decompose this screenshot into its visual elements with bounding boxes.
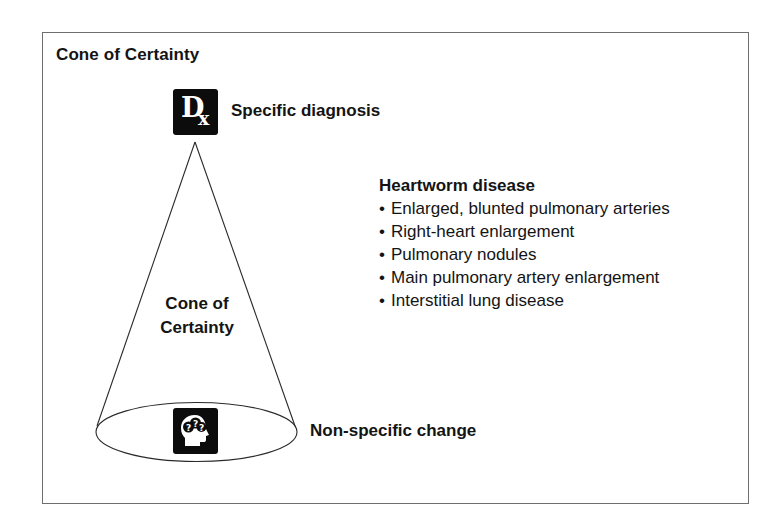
list-item: •Right-heart enlargement xyxy=(379,220,670,243)
svg-text:?: ? xyxy=(199,423,204,433)
list-item-text: Pulmonary nodules xyxy=(391,245,537,264)
list-item-text: Main pulmonary artery enlargement xyxy=(391,268,659,287)
bullet-icon: • xyxy=(379,220,391,243)
non-specific-change-label: Non-specific change xyxy=(310,421,476,441)
list-item-text: Interstitial lung disease xyxy=(391,291,564,310)
cone-left-edge xyxy=(97,142,195,426)
findings-heading: Heartworm disease xyxy=(379,174,670,197)
list-item: •Main pulmonary artery enlargement xyxy=(379,266,670,289)
bullet-icon: • xyxy=(379,266,391,289)
cone-label-line-1: Cone of xyxy=(137,292,257,316)
svg-text:?: ? xyxy=(186,423,191,433)
list-item: •Pulmonary nodules xyxy=(379,243,670,266)
list-item-text: Right-heart enlargement xyxy=(391,222,574,241)
cone-right-edge xyxy=(195,142,295,426)
cone-center-label: Cone of Certainty xyxy=(137,292,257,340)
specific-diagnosis-label: Specific diagnosis xyxy=(231,101,380,121)
list-item-text: Enlarged, blunted pulmonary arteries xyxy=(391,199,670,218)
cone-label-line-2: Certainty xyxy=(137,316,257,340)
dx-icon: D x xyxy=(173,89,218,135)
bullet-icon: • xyxy=(379,243,391,266)
bullet-icon: • xyxy=(379,289,391,312)
bullet-icon: • xyxy=(379,197,391,220)
svg-text:?: ? xyxy=(193,419,198,429)
list-item: •Interstitial lung disease xyxy=(379,289,670,312)
head-question-marks-icon: ? ? ? xyxy=(173,408,218,454)
findings-list-block: Heartworm disease •Enlarged, blunted pul… xyxy=(379,174,670,312)
dx-icon-x: x xyxy=(198,107,209,129)
findings-list: •Enlarged, blunted pulmonary arteries •R… xyxy=(379,197,670,312)
list-item: •Enlarged, blunted pulmonary arteries xyxy=(379,197,670,220)
